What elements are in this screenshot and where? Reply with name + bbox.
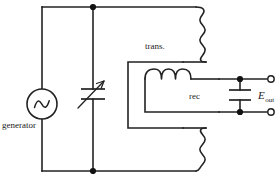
junction-dot-output-top: [237, 76, 243, 82]
filter-inductor: [145, 69, 191, 79]
output-terminal-top: [268, 76, 274, 82]
junction-dot-bottom: [90, 168, 96, 174]
svg-text:Eout: Eout: [257, 89, 274, 104]
junction-dot-top: [90, 4, 96, 10]
output-subscript: out: [265, 96, 274, 104]
output-symbol: E: [257, 89, 265, 101]
rectifier-label: rec: [189, 91, 200, 101]
transformer-label: trans.: [145, 41, 165, 51]
circuit-diagram: generator trans.: [0, 0, 280, 174]
rectifier-loop-wire: [145, 79, 219, 112]
transformer-primary-coil: [183, 7, 206, 62]
variable-capacitor: [78, 81, 105, 108]
filter-capacitor: [229, 79, 251, 112]
output-voltage-label: Eout: [257, 89, 274, 104]
output-terminal-bottom: [268, 109, 274, 115]
generator-label: generator: [2, 120, 36, 130]
junction-dot-output-bottom: [237, 109, 243, 115]
ac-generator: [27, 89, 57, 119]
transformer-secondary-coil: [183, 128, 206, 171]
